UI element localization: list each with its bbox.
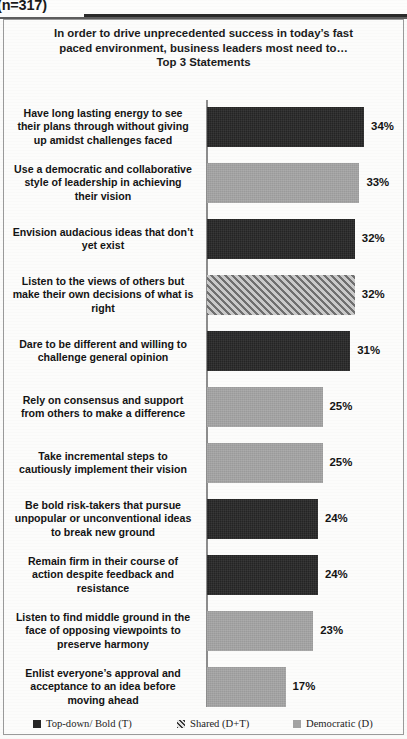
- category-label-1: Have long lasting energy to seetheir pla…: [4, 107, 202, 147]
- category-label-6-line-1: Rely on consensus and support: [4, 394, 202, 407]
- category-label-8-line-2: unpopular or unconventional ideas: [4, 512, 202, 525]
- sample-size-label: (n=317): [0, 0, 47, 13]
- category-label-2: Use a democratic and collaborativestyle …: [4, 163, 202, 203]
- legend-label-3: Democratic (D): [306, 718, 373, 729]
- legend-label-1: Top-down/ Bold (T): [46, 718, 132, 729]
- category-label-9-line-3: resistance: [4, 582, 202, 595]
- category-label-7-line-2: cautiously implement their vision: [4, 463, 202, 476]
- bar-value-label-4: 32%: [362, 288, 385, 300]
- category-label-6-line-2: from others to make a difference: [4, 407, 202, 420]
- category-label-10-line-3: preserve harmony: [4, 638, 202, 651]
- chart-title-line-3: Top 3 Statements: [20, 55, 387, 70]
- category-label-1-line-2: their plans through without giving: [4, 120, 202, 133]
- category-label-10: Listen to find middle ground in theface …: [4, 611, 202, 651]
- legend-item-2: Shared (D+T): [177, 718, 249, 729]
- bar-11: [207, 667, 286, 707]
- category-label-1-line-3: up amidst challenges faced: [4, 134, 202, 147]
- bar-value-label-3: 32%: [362, 232, 385, 244]
- category-label-5: Dare to be different and willing tochall…: [4, 338, 202, 364]
- bar-7: [207, 443, 323, 483]
- category-label-2-line-1: Use a democratic and collaborative: [4, 163, 202, 176]
- category-label-6: Rely on consensus and supportfrom others…: [4, 394, 202, 420]
- category-label-3-line-1: Envision audacious ideas that don’t: [4, 226, 202, 239]
- bar-value-label-9: 24%: [325, 568, 348, 580]
- legend-swatch-gray-icon: [293, 720, 301, 728]
- category-label-11-line-1: Enlist everyone’s approval and: [4, 667, 202, 680]
- bar-8: [207, 499, 318, 539]
- category-label-5-line-1: Dare to be different and willing to: [4, 338, 202, 351]
- bar-value-label-5: 31%: [357, 344, 380, 356]
- chart-title-line-1: In order to drive unprecedented success …: [20, 26, 387, 41]
- legend-swatch-hatch-icon: [177, 720, 185, 728]
- category-label-8-line-3: to break new ground: [4, 526, 202, 539]
- category-label-9: Remain firm in their course ofaction des…: [4, 555, 202, 595]
- category-label-9-line-2: action despite feedback and: [4, 568, 202, 581]
- category-label-4-line-2: make their own decisions of what is: [4, 288, 202, 301]
- category-label-4: Listen to the views of others butmake th…: [4, 275, 202, 315]
- scanned-page: (n=317) In order to drive unprecedented …: [0, 0, 407, 739]
- bar-value-label-11: 17%: [293, 680, 316, 692]
- category-label-10-line-2: face of opposing viewpoints to: [4, 624, 202, 637]
- bar-10: [207, 611, 313, 651]
- legend-swatch-dark-icon: [33, 720, 41, 728]
- bar-6: [207, 387, 323, 427]
- legend-item-1: Top-down/ Bold (T): [33, 718, 132, 729]
- bar-2: [207, 163, 359, 203]
- category-label-3: Envision audacious ideas that don’tyet e…: [4, 226, 202, 252]
- legend-label-2: Shared (D+T): [190, 718, 249, 729]
- bar-value-label-7: 25%: [330, 456, 353, 468]
- chart-title-line-2: paced environment, business leaders most…: [20, 41, 387, 56]
- bar-value-label-8: 24%: [325, 512, 348, 524]
- category-label-11-line-2: acceptance to an idea before: [4, 680, 202, 693]
- bar-1: [207, 107, 364, 147]
- chart-legend: Top-down/ Bold (T)Shared (D+T)Democratic…: [0, 716, 407, 736]
- bar-9: [207, 555, 318, 595]
- category-label-1-line-1: Have long lasting energy to see: [4, 107, 202, 120]
- bar-5: [207, 331, 350, 371]
- bar-3: [207, 219, 355, 259]
- category-label-8-line-1: Be bold risk-takers that pursue: [4, 499, 202, 512]
- bar-4: [207, 275, 355, 315]
- category-label-2-line-2: style of leadership in achieving: [4, 176, 202, 189]
- bar-value-label-10: 23%: [320, 624, 343, 636]
- category-label-3-line-2: yet exist: [4, 239, 202, 252]
- bar-value-label-1: 34%: [371, 120, 394, 132]
- category-label-2-line-3: their vision: [4, 190, 202, 203]
- category-label-10-line-1: Listen to find middle ground in the: [4, 611, 202, 624]
- category-label-4-line-1: Listen to the views of others but: [4, 275, 202, 288]
- category-label-5-line-2: challenge general opinion: [4, 351, 202, 364]
- bar-value-label-2: 33%: [366, 176, 389, 188]
- category-label-9-line-1: Remain firm in their course of: [4, 555, 202, 568]
- chart-title: In order to drive unprecedented success …: [20, 26, 387, 70]
- category-label-8: Be bold risk-takers that pursueunpopular…: [4, 499, 202, 539]
- category-label-7-line-1: Take incremental steps to: [4, 450, 202, 463]
- category-label-7: Take incremental steps tocautiously impl…: [4, 450, 202, 476]
- bar-value-label-6: 25%: [330, 400, 353, 412]
- category-label-11: Enlist everyone’s approval andacceptance…: [4, 667, 202, 707]
- legend-item-3: Democratic (D): [293, 718, 373, 729]
- category-label-4-line-3: right: [4, 302, 202, 315]
- category-label-11-line-3: moving ahead: [4, 694, 202, 707]
